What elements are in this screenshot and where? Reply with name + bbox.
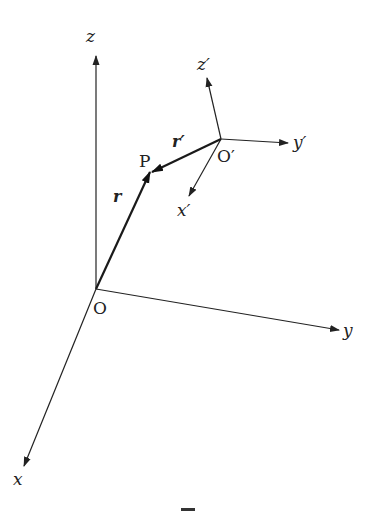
x-axis [24, 289, 96, 466]
vector-r-prime-label: r′ [172, 132, 185, 151]
position-vectors: r r′ P [96, 132, 221, 289]
coordinate-frames-diagram: z y x O z′ y′ x′ O′ r r′ P [0, 0, 375, 511]
x-prime-axis-label: x′ [177, 200, 191, 220]
y-prime-axis [221, 139, 288, 143]
y-prime-axis-label: y′ [292, 132, 307, 152]
point-p-label: P [139, 151, 150, 171]
z-axis-label: z [85, 26, 96, 46]
frame-o-prime: z′ y′ x′ O′ [177, 54, 307, 220]
frame-o: z y x O [13, 26, 353, 489]
origin-o-label: O [93, 298, 107, 318]
y-axis-label: y [342, 320, 353, 340]
z-prime-axis-label: z′ [196, 54, 210, 74]
vector-r [96, 172, 150, 289]
x-axis-label: x [13, 469, 23, 489]
vector-r-label: r [113, 187, 123, 206]
z-prime-axis [207, 78, 221, 139]
origin-o-prime-label: O′ [217, 146, 235, 166]
y-axis [96, 289, 339, 330]
vector-r-prime [152, 139, 221, 172]
